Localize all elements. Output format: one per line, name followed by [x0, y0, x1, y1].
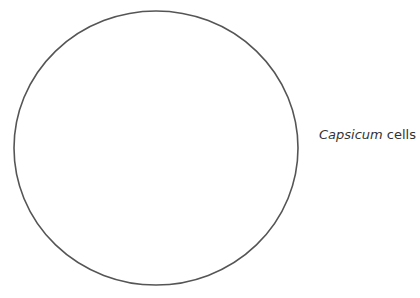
- cell-diagram: Capsicum cells: [0, 0, 420, 298]
- species-name: Capsicum: [319, 127, 383, 142]
- cell-outline-canvas: [0, 0, 420, 298]
- cell-label-suffix: cells: [383, 127, 416, 142]
- cell-outline-circle: [14, 11, 298, 285]
- cell-label: Capsicum cells: [319, 126, 416, 144]
